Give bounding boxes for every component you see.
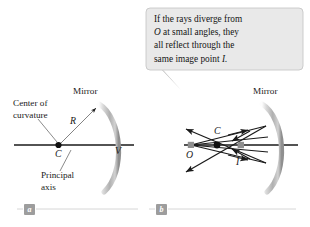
reflected-ray-upper [186,126,266,172]
mirror-arc-b [262,104,282,192]
principal-axis-label-line1: Principal [41,170,74,180]
callout-line-4: same image point I. [154,53,294,66]
mirror-figure: If the rays diverge from O at small angl… [0,0,310,227]
center-of-curvature-leader [38,119,57,142]
callout-symbol-i: I. [222,54,227,64]
center-point-marker-b [214,142,221,149]
radius-label: R [70,116,76,127]
incident-ray-middle-upper [191,137,268,145]
callout-line-4-pre: same image point [154,54,222,64]
callout-line-2-rest: at small angles, they [161,27,239,37]
panel-b-diagram [184,104,298,192]
center-point-label-b: C [214,126,221,137]
radius-line [59,108,96,145]
callout-line-1: If the rays diverge from [154,13,294,26]
panel-tag-b: b [156,204,167,215]
mirror-label-b: Mirror [253,86,278,96]
incident-ray-middle-lower [191,145,268,152]
center-of-curvature-label-line2: curvature [13,110,48,120]
vertex-point-label: V [115,146,121,157]
image-point-label: I [236,157,239,168]
callout-line-3: all reflect through the [154,39,294,52]
mirror-label-a: Mirror [73,86,98,96]
object-point-marker [188,142,194,148]
callout-symbol-o: O [154,27,161,37]
callout-line-2: O at small angles, they [154,26,294,39]
principal-axis-label-line2: axis [41,182,56,192]
object-point-label: O [186,150,193,161]
panel-tag-a: a [24,204,35,215]
center-of-curvature-point-label: C [55,149,62,160]
center-of-curvature-label-line1: Center of [13,98,47,108]
callout-text: If the rays diverge from O at small angl… [154,13,294,66]
image-point-marker [238,142,244,148]
